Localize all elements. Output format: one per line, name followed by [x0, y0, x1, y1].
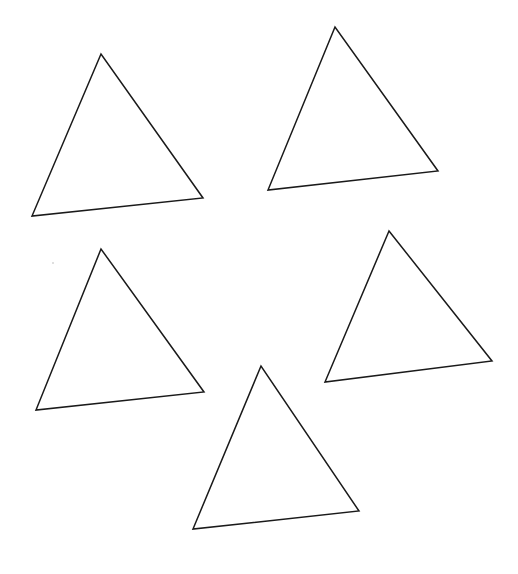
speck-mark	[52, 262, 54, 264]
canvas-background	[0, 0, 518, 574]
triangles-svg	[0, 0, 518, 574]
drawing-canvas	[0, 0, 518, 574]
